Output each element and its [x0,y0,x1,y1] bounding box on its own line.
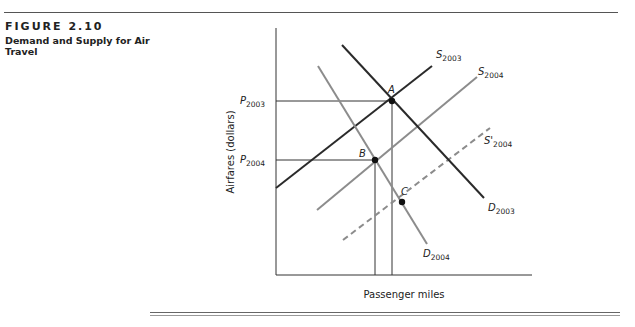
point-label-a: A [387,84,395,95]
y-axis-label: Airfares (dollars) [225,110,236,193]
curve-s-prime2004 [343,128,490,240]
curve-d2003 [342,45,484,198]
label-d2004: D2004 [423,248,450,262]
bottom-rule-double [150,315,620,316]
price-label-2003: P2003 [240,95,265,109]
point-label-b: B [359,148,366,159]
curve-s2004 [317,77,477,210]
bottom-rule [150,312,620,313]
point-a [389,98,395,104]
curve-d2004 [318,66,427,244]
supply-demand-chart: Passenger miles Airfares (dollars) P2003… [0,0,635,327]
point-b [372,157,378,163]
curve-s2003 [276,66,432,188]
point-c [399,199,405,205]
label-d2003: D2003 [488,202,515,216]
label-s-prime-2004: S'2004 [484,135,512,149]
label-s2004: S2004 [478,66,504,80]
point-label-c: C [401,186,408,197]
price-label-2004: P2004 [240,154,265,168]
label-s2003: S2003 [436,49,462,63]
x-axis-label: Passenger miles [363,289,444,300]
